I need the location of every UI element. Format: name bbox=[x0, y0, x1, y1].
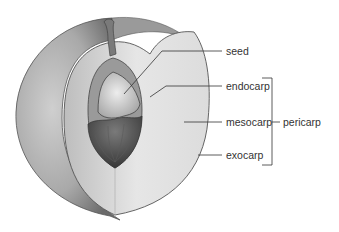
label-mesocarp: mesocarp bbox=[226, 116, 272, 128]
label-seed: seed bbox=[226, 45, 249, 57]
drupe-diagram: seed endocarp mesocarp exocarp pericarp bbox=[0, 0, 339, 232]
label-exocarp: exocarp bbox=[226, 149, 263, 161]
label-endocarp: endocarp bbox=[226, 80, 270, 92]
label-pericarp: pericarp bbox=[283, 116, 321, 128]
